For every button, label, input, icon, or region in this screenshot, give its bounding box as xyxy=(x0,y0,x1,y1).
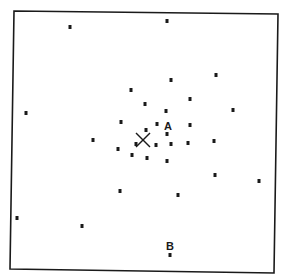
point xyxy=(189,97,192,101)
point xyxy=(232,108,235,112)
point xyxy=(156,122,159,126)
point xyxy=(189,123,192,127)
point-a xyxy=(166,132,169,136)
point xyxy=(69,25,72,29)
point xyxy=(170,142,173,146)
points-layer xyxy=(16,19,261,257)
point xyxy=(214,173,217,177)
label-a: A xyxy=(164,120,172,132)
point xyxy=(166,19,169,23)
point xyxy=(165,109,168,113)
point xyxy=(177,193,180,197)
point xyxy=(120,120,123,124)
point xyxy=(16,216,19,220)
point xyxy=(81,224,84,228)
point xyxy=(145,128,148,132)
center-x-marker xyxy=(136,133,150,147)
point-b xyxy=(169,253,172,257)
point xyxy=(144,102,147,106)
point xyxy=(130,88,133,92)
label-b: B xyxy=(166,240,174,252)
point xyxy=(170,78,173,82)
point xyxy=(25,111,28,115)
point xyxy=(117,147,120,151)
point xyxy=(215,73,218,77)
point xyxy=(119,189,122,193)
point xyxy=(131,153,134,157)
point xyxy=(213,139,216,143)
point xyxy=(146,156,149,160)
point xyxy=(155,143,158,147)
point xyxy=(92,138,95,142)
point xyxy=(187,141,190,145)
plot-frame xyxy=(10,11,278,273)
diagram-canvas: A B xyxy=(0,0,285,280)
point xyxy=(166,159,169,163)
point xyxy=(258,179,261,183)
